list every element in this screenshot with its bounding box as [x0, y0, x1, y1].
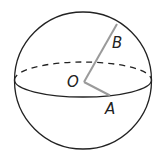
equator-front: [15, 80, 152, 97]
label-a: A: [104, 100, 115, 118]
sphere-diagram: B O A: [0, 0, 165, 161]
radius-oa: [84, 82, 110, 96]
sphere-outline: [15, 12, 152, 149]
label-o: O: [67, 73, 79, 91]
radius-ob: [84, 24, 117, 82]
label-b: B: [112, 34, 122, 52]
equator-back-dashed: [15, 62, 152, 80]
